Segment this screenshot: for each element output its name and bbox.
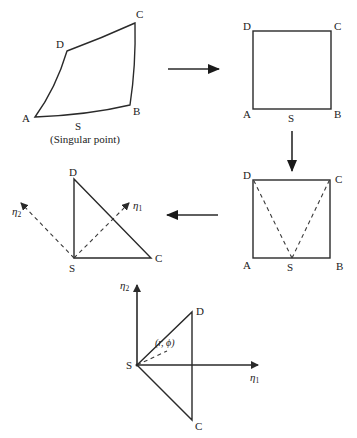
label-C: C bbox=[155, 252, 162, 264]
triangle-outline bbox=[137, 312, 192, 420]
eta2-label: η2 bbox=[120, 279, 129, 293]
curved-element: A B C D S (Singular point) bbox=[22, 8, 143, 146]
label-B: B bbox=[336, 260, 343, 272]
label-D: D bbox=[243, 20, 251, 32]
rotated-triangle-element: D S C (r, ϕ) η2 η1 bbox=[120, 279, 259, 432]
label-A: A bbox=[243, 108, 251, 120]
label-B: B bbox=[334, 108, 341, 120]
label-A: A bbox=[22, 112, 30, 124]
mapped-square: A B C D S bbox=[243, 20, 341, 124]
label-S: S bbox=[288, 112, 294, 124]
curved-quad-outline bbox=[35, 23, 135, 117]
label-D: D bbox=[243, 169, 251, 181]
label-S: S bbox=[69, 262, 75, 274]
label-S: S bbox=[287, 261, 293, 273]
square-outline bbox=[253, 31, 331, 109]
polar-coordinates-label: (r, ϕ) bbox=[155, 337, 175, 349]
polar-radius-dashed bbox=[137, 351, 167, 365]
eta2-axis-dashed bbox=[21, 203, 74, 258]
label-D: D bbox=[196, 305, 204, 317]
dashed-split-line-SC bbox=[292, 181, 329, 258]
label-C: C bbox=[334, 20, 341, 32]
label-S: S bbox=[126, 359, 132, 371]
label-C: C bbox=[335, 173, 342, 185]
eta1-label: η1 bbox=[250, 371, 259, 385]
label-C: C bbox=[136, 8, 143, 20]
label-D: D bbox=[56, 38, 64, 50]
label-S: S bbox=[75, 120, 81, 132]
eta1-axis-dashed bbox=[74, 203, 129, 258]
dashed-split-line-SD bbox=[254, 181, 292, 258]
label-A: A bbox=[243, 259, 251, 271]
eta2-label: η2 bbox=[12, 205, 21, 219]
singular-point-dot bbox=[136, 364, 139, 367]
square-outline bbox=[253, 180, 330, 258]
singular-element-mapping-diagram: A B C D S (Singular point) A B C D S A B… bbox=[0, 0, 357, 438]
label-C: C bbox=[195, 420, 202, 432]
triangle-element: D S C η1 η2 bbox=[12, 166, 162, 274]
eta1-label: η1 bbox=[133, 199, 142, 213]
label-B: B bbox=[133, 105, 140, 117]
singular-point-caption: (Singular point) bbox=[50, 133, 120, 146]
split-square: A B C D S bbox=[243, 169, 343, 273]
label-D: D bbox=[69, 166, 77, 178]
